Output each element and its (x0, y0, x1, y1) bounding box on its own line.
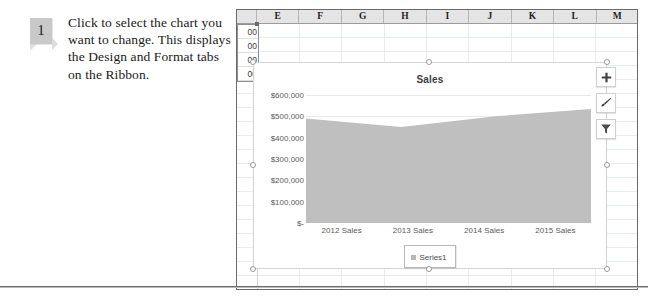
column-header-row: E F G H I J K L M (237, 10, 638, 24)
legend-box[interactable]: Series1 (404, 245, 455, 268)
x-tick-label: 2013 Sales (377, 226, 448, 238)
chart-selection-handle-n[interactable] (426, 59, 432, 65)
y-tick-label: $- (254, 219, 304, 228)
column-header-j[interactable]: J (469, 10, 511, 23)
chart-title[interactable]: Sales (254, 74, 606, 85)
column-header-k[interactable]: K (512, 10, 554, 23)
chart-y-axis: $600,000 $500,000 $400,000 $300,000 $200… (254, 95, 304, 223)
column-header-i[interactable]: I (427, 10, 469, 23)
chart-selection-handle-e[interactable] (604, 162, 610, 168)
chart-elements-button[interactable] (596, 67, 616, 87)
instruction-text: Click to select the chart you want to ch… (68, 14, 232, 83)
y-tick-label: $500,000 (254, 112, 304, 121)
chart-selection-handle-w[interactable] (250, 162, 256, 168)
range-handle-top[interactable] (255, 22, 259, 26)
y-tick-label: $200,000 (254, 176, 304, 185)
plus-icon (601, 72, 612, 83)
y-tick-label: $100,000 (254, 197, 304, 206)
paintbrush-icon (600, 97, 612, 109)
x-tick-label: 2015 Sales (520, 226, 591, 238)
column-header-f[interactable]: F (299, 10, 341, 23)
spreadsheet-panel[interactable]: E F G H I J K L M (236, 9, 638, 290)
legend-label: Series1 (419, 253, 446, 262)
source-cell[interactable]: 00 (238, 39, 258, 53)
chart-selection-handle-ne[interactable] (604, 59, 610, 65)
chart-selection-handle-sw[interactable] (250, 266, 256, 272)
funnel-icon (600, 123, 612, 135)
x-tick-label: 2012 Sales (306, 226, 377, 238)
chart-filters-button[interactable] (596, 119, 616, 139)
page-divider-soft (0, 287, 648, 288)
column-header-stub (237, 10, 257, 23)
chart-styles-button[interactable] (596, 93, 616, 113)
y-tick-label: $300,000 (254, 155, 304, 164)
area-series-series1[interactable] (306, 95, 591, 223)
column-header-h[interactable]: H (384, 10, 426, 23)
chart-selection-handle-s[interactable] (426, 266, 432, 272)
chart-plot-area[interactable] (306, 95, 591, 223)
source-cell[interactable]: 00 (238, 25, 258, 39)
column-header-e[interactable]: E (257, 10, 299, 23)
x-tick-label: 2014 Sales (449, 226, 520, 238)
instruction-block: 1 Click to select the chart you want to … (0, 0, 232, 304)
chart-selection-handle-nw[interactable] (250, 59, 256, 65)
step-number-badge: 1 (30, 18, 52, 44)
column-header-g[interactable]: G (342, 10, 384, 23)
chart-selection-handle-se[interactable] (604, 266, 610, 272)
chart-quick-buttons[interactable] (596, 67, 618, 145)
chart-object[interactable]: Sales $600,000 $500,000 $400,000 $300,00… (253, 62, 607, 269)
y-tick-label: $400,000 (254, 133, 304, 142)
y-tick-label: $600,000 (254, 91, 304, 100)
chart-legend[interactable]: Series1 (254, 245, 606, 268)
column-header-m[interactable]: M (597, 10, 639, 23)
step-badge-fold-corner (30, 44, 37, 51)
legend-swatch-icon (411, 255, 416, 260)
chart-x-axis: 2012 Sales 2013 Sales 2014 Sales 2015 Sa… (306, 226, 591, 238)
column-header-l[interactable]: L (554, 10, 596, 23)
